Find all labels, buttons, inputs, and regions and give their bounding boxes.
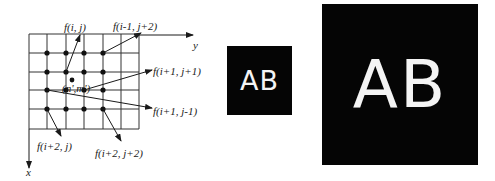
large-ab-text: AB — [353, 46, 447, 123]
sample-points — [44, 50, 105, 111]
y-axis-label: y — [192, 39, 198, 51]
label-f-i-j: f(i, j) — [64, 21, 86, 34]
large-ab-image: AB — [322, 4, 478, 165]
small-ab-image: AB — [227, 46, 292, 115]
interpolation-grid-diagram: y x (n',m') f(i, j) f(i-1, j+2) f(i+1, j… — [0, 0, 220, 181]
label-f-ip1-jm1: f(i+1, j-1) — [153, 105, 197, 118]
label-f-im1-jp2: f(i-1, j+2) — [113, 20, 157, 33]
small-ab-text: AB — [240, 65, 279, 96]
label-f-ip2-jp2: f(i+2, j+2) — [95, 147, 143, 160]
label-f-ip1-jp1: f(i+1, j+1) — [153, 65, 201, 78]
x-axis-label: x — [25, 166, 31, 178]
label-f-ip2-j: f(i+2, j) — [37, 140, 72, 153]
